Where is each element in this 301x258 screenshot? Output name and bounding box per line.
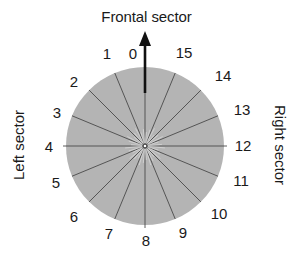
sector-number-14: 14 [215, 68, 232, 84]
sector-wheel [0, 0, 301, 258]
sector-diagram: Frontal sector Left sector Right sector … [0, 0, 301, 258]
sector-number-13: 13 [234, 102, 251, 118]
sector-number-15: 15 [176, 45, 193, 61]
sector-number-11: 11 [233, 173, 249, 189]
sector-number-8: 8 [142, 233, 150, 249]
sector-number-0: 0 [129, 46, 137, 62]
center-point [143, 144, 147, 148]
sector-number-1: 1 [103, 46, 111, 62]
sector-number-10: 10 [211, 206, 228, 222]
sector-number-4: 4 [45, 139, 53, 155]
arrow-head-icon [139, 31, 151, 46]
sector-number-3: 3 [53, 105, 61, 121]
sector-number-6: 6 [70, 209, 78, 225]
sector-number-9: 9 [179, 225, 187, 241]
sector-number-2: 2 [70, 74, 78, 90]
sector-number-12: 12 [235, 138, 252, 154]
sector-number-5: 5 [52, 175, 60, 191]
sector-number-7: 7 [105, 226, 113, 242]
